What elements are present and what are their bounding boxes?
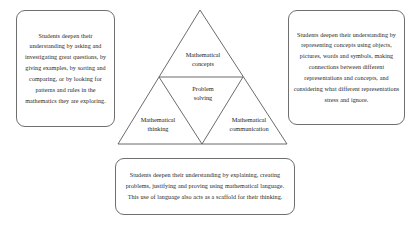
triangle-diagram: Mathematical concepts Problem solving Ma… <box>110 2 296 152</box>
triangle-node-communication-line2: communication <box>206 124 292 133</box>
triangle-node-concepts-line2: concepts <box>110 59 296 68</box>
callout-right-text: Students deepen their understanding by r… <box>293 30 400 106</box>
triangle-node-communication-line1: Mathematical <box>206 115 292 124</box>
diagram-canvas: Students deepen their understanding by a… <box>0 0 414 230</box>
callout-box-bottom: Students deepen their understanding by e… <box>115 158 295 215</box>
triangle-node-concepts: Mathematical concepts <box>110 50 296 68</box>
callout-box-right: Students deepen their understanding by r… <box>288 10 405 125</box>
triangle-node-problem-solving-line1: Problem <box>110 84 296 93</box>
triangle-node-problem-solving-line2: solving <box>110 93 296 102</box>
triangle-node-communication: Mathematical communication <box>206 115 292 133</box>
callout-left-text: Students deepen their understanding by a… <box>21 31 110 107</box>
triangle-node-concepts-line1: Mathematical <box>110 50 296 59</box>
triangle-node-thinking-line1: Mathematical <box>116 115 200 124</box>
triangle-node-thinking-line2: thinking <box>116 124 200 133</box>
callout-bottom-text: Students deepen their understanding by e… <box>120 170 290 204</box>
triangle-node-problem-solving: Problem solving <box>110 84 296 102</box>
triangle-node-thinking: Mathematical thinking <box>116 115 200 133</box>
callout-box-left: Students deepen their understanding by a… <box>16 10 115 127</box>
